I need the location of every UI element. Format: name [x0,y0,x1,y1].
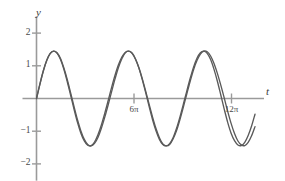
plot-canvas [0,0,285,181]
axes-group [23,16,265,180]
y-tick-label: 1 [15,60,31,70]
x-tick-label: 6π [122,105,146,114]
y-tick-label: 2 [15,28,31,38]
t-axis-label: t [266,86,269,97]
y-tick-label: −1 [15,126,31,136]
y-tick-label: −2 [15,158,31,168]
y-axis-label: y [36,7,41,18]
x-tick-label: 12π [220,105,244,114]
plot-figure: y t 21−1−26π12π [0,0,285,181]
